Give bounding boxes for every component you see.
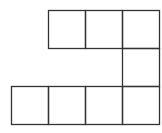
grid-cell-r2-c1 [49,87,86,125]
square-grid-diagram [0,0,162,133]
grid-cell-r1-c3 [123,49,160,87]
grid-cell-r2-c2 [86,87,123,125]
grid-cell-r2-c3 [123,87,160,125]
grid-cell-r0-c3 [123,11,160,49]
grid-cell-r0-c2 [86,11,123,49]
grid-cell-r0-c1 [49,11,86,49]
grid-cell-r2-c0 [12,87,49,125]
